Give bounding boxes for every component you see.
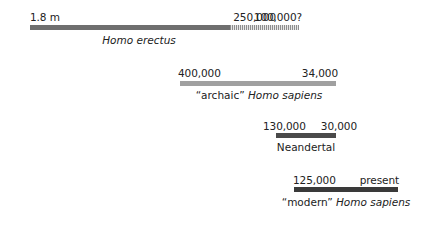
erectus-label-italic: Homo erectus [102,34,176,46]
modern-label-prefix: “modern” [282,196,336,208]
modern-label-italic: Homo sapiens [336,196,410,208]
archaic-end-tick: 34,000 [302,67,338,79]
archaic-start-tick: 400,000 [178,67,221,79]
erectus-start-tick: 1.8 m [30,11,60,23]
hominin-timeline-chart: 1.8 m 250,000 100,000? Homo erectus 400,… [0,0,433,226]
neandertal-end-tick: 30,000 [321,120,357,132]
erectus-solid-bar [30,25,230,30]
archaic-label-prefix: “archaic” [196,89,248,101]
modern-label: “modern” Homo sapiens [282,196,411,208]
erectus-uncertain-bar [230,25,299,30]
archaic-bar [180,81,336,86]
erectus-label: Homo erectus [102,34,176,46]
neandertal-label: Neandertal [277,141,335,153]
modern-bar [294,187,398,192]
erectus-end-tick: 100,000? [254,11,302,23]
archaic-label: “archaic” Homo sapiens [196,89,323,101]
neandertal-label-prefix: Neandertal [277,141,335,153]
neandertal-start-tick: 130,000 [263,120,306,132]
archaic-label-italic: Homo sapiens [248,89,322,101]
modern-end-tick: present [360,174,399,186]
modern-start-tick: 125,000 [293,174,336,186]
neandertal-bar [276,133,336,138]
